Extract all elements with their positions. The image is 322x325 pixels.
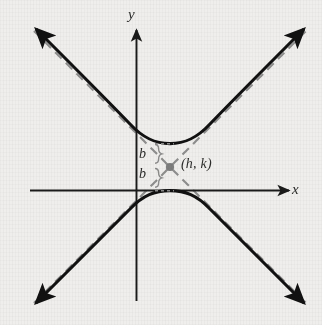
axis-group: [30, 30, 289, 301]
hyperbola-lower-branch: [36, 191, 304, 303]
b-label-upper: b: [139, 146, 146, 162]
hyperbola-figure: y x (h, k) b b: [0, 0, 322, 325]
y-axis-label: y: [128, 6, 135, 23]
brace-lower: [155, 169, 162, 188]
center-point-dot: [166, 163, 174, 171]
figure-canvas: [0, 0, 322, 325]
hyperbola-upper-branch: [36, 29, 304, 144]
b-label-lower: b: [139, 166, 146, 182]
x-axis-label: x: [292, 181, 299, 198]
center-coordinate-label: (h, k): [181, 156, 212, 172]
